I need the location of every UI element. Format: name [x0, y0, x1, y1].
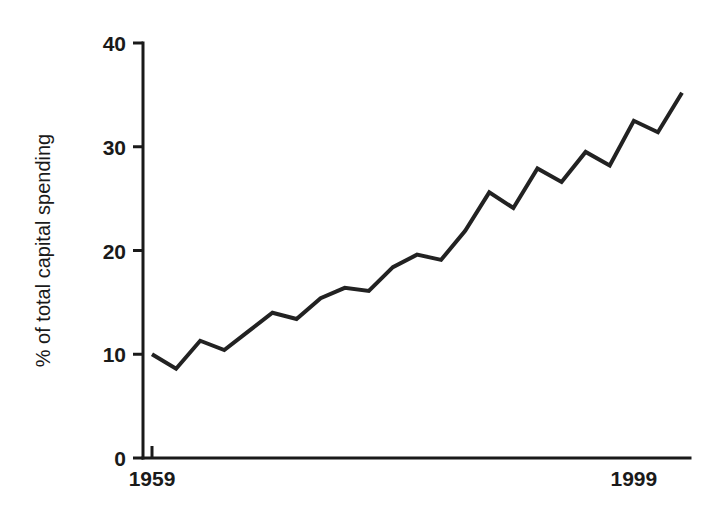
- y-tick-label: 30: [103, 136, 126, 159]
- y-tick-label: 10: [103, 343, 126, 366]
- y-tick-label: 20: [103, 240, 126, 263]
- chart-canvas: 010203040 19591999 % of total capital sp…: [0, 0, 718, 520]
- y-axis-title: % of total capital spending: [32, 134, 54, 368]
- x-tick-label: 1959: [129, 467, 176, 490]
- line-chart-figure: 010203040 19591999 % of total capital sp…: [0, 0, 718, 520]
- y-tick-label: 0: [114, 447, 126, 470]
- y-tick-label: 40: [103, 32, 126, 55]
- x-tick-label: 1999: [610, 467, 657, 490]
